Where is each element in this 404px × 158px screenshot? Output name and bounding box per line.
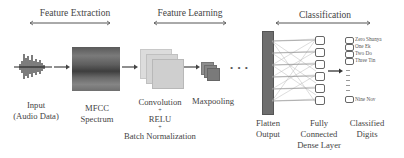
dense-node: [315, 36, 325, 45]
mfcc-spectrum-image: [72, 47, 120, 91]
arrow-dense-to-output: [328, 68, 344, 74]
digit-output-box: [345, 58, 354, 65]
dense-label-line2: Connected: [292, 129, 346, 140]
section-title-classification: Classification: [290, 10, 360, 20]
arrow-input-to-mfcc: [54, 64, 70, 70]
more-layers-ellipsis: • • •: [230, 63, 249, 73]
dense-node: [315, 60, 325, 69]
conv-label-line2: RELU: [112, 114, 208, 124]
input-label-line2: (Audio Data): [8, 111, 64, 122]
digit-output-box: [345, 44, 354, 51]
digits-label-line1: Classified: [342, 118, 392, 129]
dense-label: Fully Connected Dense Layer: [292, 118, 346, 151]
input-label-line1: Input: [8, 100, 64, 111]
digit-label: One Ek: [355, 43, 371, 49]
arrow-mfcc-to-conv: [122, 64, 138, 70]
dense-node: [315, 48, 325, 57]
digits-label-line2: Digits: [342, 129, 392, 140]
conv-label-plus1: +: [112, 107, 208, 114]
audio-waveform-icon: [14, 50, 52, 80]
dense-node: [315, 72, 325, 81]
digit-output-box: [345, 37, 354, 44]
classified-digits-label: Classified Digits: [342, 118, 392, 140]
dense-node: [315, 96, 325, 105]
digit-label: Two Do: [355, 50, 372, 56]
dense-node: [315, 84, 325, 93]
feature-extraction-span-arrow: [28, 20, 112, 26]
flatten-label-line2: Output: [248, 129, 288, 140]
maxpooling-feature-maps: [201, 62, 223, 84]
digit-label: Nine Nov: [355, 96, 375, 102]
conv-label-line3: Batch Normalization: [112, 131, 208, 141]
digit-output-box: [345, 96, 354, 103]
maxpooling-label: Maxpooling: [188, 96, 238, 107]
section-title-feature-extraction: Feature Extraction: [30, 8, 120, 18]
dense-connections: [272, 31, 318, 113]
section-title-feature-learning: Feature Learning: [150, 8, 230, 18]
more-digits-placeholder: [346, 68, 350, 95]
dense-label-line3: Dense Layer: [292, 140, 346, 151]
convolution-feature-maps: [140, 49, 190, 91]
flatten-label: Flatten Output: [248, 118, 288, 140]
digit-label: Three Tin: [355, 57, 375, 63]
flatten-label-line1: Flatten: [248, 118, 288, 129]
digit-output-box: [345, 51, 354, 58]
classification-span-arrow: [274, 20, 372, 26]
digit-label: Zero Shunya: [355, 36, 382, 42]
arrow-conv-to-pool: [184, 64, 200, 70]
feature-learning-span-arrow: [152, 20, 228, 26]
dense-label-line1: Fully: [292, 118, 346, 129]
input-label: Input (Audio Data): [8, 100, 64, 122]
conv-label-plus2: +: [112, 124, 208, 131]
